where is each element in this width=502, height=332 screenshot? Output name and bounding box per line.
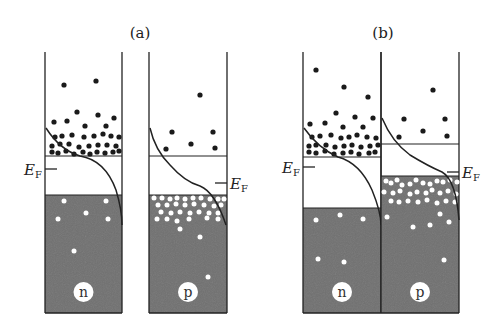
electron-dot: [375, 142, 380, 147]
hole-dot: [447, 220, 452, 225]
electron-dot: [86, 143, 91, 148]
hole-dot: [416, 200, 421, 205]
hole-dot: [216, 217, 221, 222]
hole-dot: [169, 211, 174, 216]
electron-dot: [341, 143, 346, 148]
fermi-level-marker: EF: [23, 161, 57, 180]
electron-dot: [49, 143, 54, 148]
hole-dot: [72, 249, 77, 254]
electron-dot: [104, 142, 109, 147]
electron-dot: [82, 123, 87, 128]
electron-dot: [95, 112, 100, 117]
electron-dot: [317, 133, 322, 138]
electron-dot: [81, 134, 86, 139]
hole-dot: [316, 257, 321, 262]
electron-dot: [306, 143, 311, 148]
hole-dot: [156, 203, 161, 208]
hole-dot: [155, 217, 160, 222]
electron-dot: [338, 135, 343, 140]
hole-dot: [385, 215, 390, 220]
fermi-level-label: EF: [461, 164, 480, 183]
electron-dot: [87, 151, 92, 156]
hole-dot: [389, 199, 394, 204]
hole-dot: [192, 202, 197, 207]
electron-dot: [364, 134, 369, 139]
electron-dot: [401, 116, 406, 121]
fermi-level-marker: EF: [215, 175, 248, 194]
electron-dot: [197, 92, 202, 97]
doping-type-label: p: [416, 284, 425, 300]
hole-dot: [84, 211, 89, 216]
electron-dot: [59, 133, 64, 138]
electron-dot: [108, 133, 113, 138]
electron-dot: [322, 120, 327, 125]
hole-dot: [178, 227, 183, 232]
hole-dot: [216, 197, 221, 202]
hole-dot: [314, 218, 319, 223]
electron-dot: [366, 150, 371, 155]
hole-dot: [187, 217, 192, 222]
hole-dot: [222, 197, 227, 202]
electron-dot: [95, 142, 100, 147]
electron-dot: [64, 118, 69, 123]
electron-dot: [93, 78, 98, 83]
electron-dot: [307, 121, 312, 126]
electron-dot: [444, 133, 449, 138]
hole-dot: [197, 210, 202, 215]
electron-dot: [346, 134, 351, 139]
electron-dot: [354, 132, 359, 137]
hole-dot: [408, 182, 413, 187]
hole-dot: [424, 191, 429, 196]
electron-dot: [210, 129, 215, 134]
hole-dot: [208, 197, 213, 202]
hole-dot: [216, 211, 221, 216]
hole-dot: [152, 196, 157, 201]
electron-dot: [348, 149, 353, 154]
hole-dot: [398, 189, 403, 194]
fermi-level-marker: EF: [281, 159, 315, 178]
panel-b: (b)EFnEFp: [281, 24, 480, 313]
electron-dot: [169, 129, 174, 134]
electron-dot: [442, 116, 447, 121]
panel-title: (b): [372, 24, 393, 42]
electron-dot: [341, 84, 346, 89]
semiconductor-block-p: EFp: [149, 52, 248, 313]
electron-dot: [49, 149, 54, 154]
hole-dot: [178, 210, 183, 215]
hole-dot: [455, 180, 460, 185]
hole-dot: [441, 180, 446, 185]
fermi-level-label: EF: [229, 175, 248, 194]
electron-dot: [212, 145, 217, 150]
hole-dot: [202, 203, 207, 208]
doping-type-label: n: [79, 284, 88, 300]
hole-dot: [338, 213, 343, 218]
panel-title: (a): [130, 24, 151, 42]
hole-dot: [361, 217, 366, 222]
hole-dot: [205, 216, 210, 221]
electron-dot: [103, 123, 108, 128]
hole-dot: [165, 217, 170, 222]
fermi-level-label: EF: [281, 159, 300, 178]
electron-dot: [373, 135, 378, 140]
hole-dot: [106, 217, 111, 222]
hole-dot: [389, 181, 394, 186]
electron-dot: [360, 124, 365, 129]
hole-dot: [442, 258, 447, 263]
electron-dot: [66, 141, 71, 146]
electron-dot: [51, 119, 56, 124]
electron-dot: [365, 94, 370, 99]
doping-type-label: p: [184, 284, 193, 300]
electron-dot: [396, 134, 401, 139]
hole-dot: [428, 223, 433, 228]
hole-dot: [183, 203, 188, 208]
electron-dot: [356, 151, 361, 156]
hole-dot: [160, 196, 165, 201]
hole-dot: [421, 181, 426, 186]
hole-dot: [397, 200, 402, 205]
electron-dot: [370, 115, 375, 120]
semiconductor-block-p: EFp: [381, 52, 480, 313]
electron-dot: [349, 142, 354, 147]
hole-dot: [175, 196, 180, 201]
hole-dot: [406, 199, 411, 204]
semiconductor-block-n: EFn: [281, 52, 381, 313]
